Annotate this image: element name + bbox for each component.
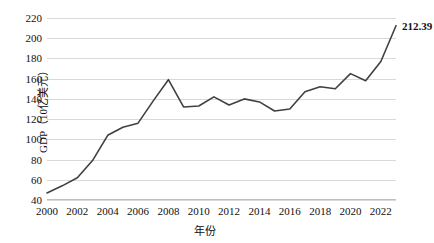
x-axis-title: 年份 xyxy=(194,222,216,238)
last-value-label: 212.39 xyxy=(402,20,432,32)
gdp-line-chart: 406080100120140160180200220 200020022004… xyxy=(0,0,434,243)
gdp-series-line xyxy=(47,26,396,193)
y-axis-title-holder: GDP（10亿美元） xyxy=(0,18,16,200)
y-axis-title: GDP（10亿美元） xyxy=(34,65,50,153)
series-layer xyxy=(0,0,434,243)
x-axis-title-holder: 年份 xyxy=(0,222,434,238)
